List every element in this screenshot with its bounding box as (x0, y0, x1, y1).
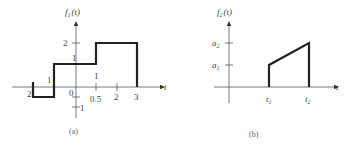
y-tick-label-1: 1 (72, 53, 77, 63)
signal-f2 (269, 43, 309, 87)
signal-f1 (33, 43, 137, 97)
y-tick-label-a2: a2 (212, 38, 220, 49)
x-tick-label-0-5: 0.5 (90, 94, 102, 104)
figure-b: f2(t) t a2 a1 t1 t2 (b) (212, 7, 339, 139)
figure-a: f1(t) t 2 1 1 2 1 0 0.5 1 2 3 (a) (12, 7, 167, 136)
y-tick-label-a1: a1 (212, 60, 220, 71)
x-tick-label-neg2: 2 (27, 89, 32, 99)
y-tick-label-neg1: 1 (80, 103, 85, 113)
x-tick-label-1: 1 (94, 71, 99, 81)
diagram-canvas: f1(t) t 2 1 1 2 1 0 0.5 1 2 3 (a) f2(t) … (0, 0, 351, 149)
x-tick-label-t1: t1 (266, 94, 272, 105)
y-label-a: f1(t) (65, 7, 80, 18)
x-tick-label-2: 2 (114, 92, 119, 102)
x-label-b: t (336, 82, 339, 92)
x-tick-label-t2: t2 (305, 94, 311, 105)
x-label-a: t (164, 82, 167, 92)
caption-a: (a) (69, 127, 78, 136)
y-tick-label-2: 2 (63, 38, 68, 48)
x-tick-label-neg1: 1 (47, 75, 52, 85)
caption-b: (b) (249, 130, 259, 139)
origin-label-a: 0 (69, 88, 74, 98)
x-tick-label-3: 3 (134, 92, 139, 102)
y-label-b: f2(t) (217, 7, 232, 18)
